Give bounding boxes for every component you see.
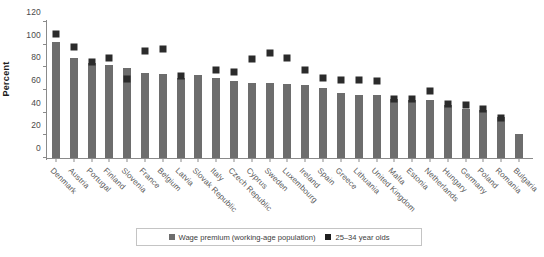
data-point-marker: [498, 115, 505, 122]
data-point-marker: [141, 48, 148, 55]
x-axis-tick-mark: [144, 158, 145, 162]
x-axis-tick-mark: [287, 158, 288, 162]
x-axis-tick-mark: [91, 158, 92, 162]
x-axis-tick-mark: [269, 158, 270, 162]
x-axis-tick-mark: [501, 158, 502, 162]
bar-group: [475, 22, 493, 158]
bar: [141, 73, 149, 158]
bar-group: [118, 22, 136, 158]
x-axis-tick-mark: [340, 158, 341, 162]
x-axis-tick-mark: [234, 158, 235, 162]
x-axis-tick-mark: [447, 158, 448, 162]
x-axis-tick-mark: [162, 158, 163, 162]
bar: [497, 117, 505, 158]
bar-group: [332, 22, 350, 158]
bar: [301, 85, 309, 158]
x-axis-tick-mark: [251, 158, 252, 162]
x-axis-tick-mark: [180, 158, 181, 162]
data-point-marker: [284, 55, 291, 62]
data-point-marker: [391, 96, 398, 103]
bar: [177, 78, 185, 158]
bar-group: [385, 22, 403, 158]
bar-group: [207, 22, 225, 158]
data-point-marker: [213, 66, 220, 73]
x-axis-tick-mark: [305, 158, 306, 162]
bar-group: [368, 22, 386, 158]
y-axis-tick-label: 40: [31, 98, 47, 108]
bar-group: [100, 22, 118, 158]
bar: [515, 134, 523, 158]
data-point-marker: [462, 101, 469, 108]
legend-item: 25–34 year olds: [325, 233, 389, 242]
data-point-marker: [355, 76, 362, 83]
data-point-marker: [320, 74, 327, 81]
y-axis-tick-label: 60: [31, 75, 47, 85]
data-point-marker: [337, 76, 344, 83]
bar: [248, 83, 256, 158]
x-axis-tick-mark: [465, 158, 466, 162]
bar-group: [190, 22, 208, 158]
bar: [266, 83, 274, 158]
chart-legend: Wage premium (working-age population)25–…: [136, 228, 422, 246]
y-axis-tick-label: 0: [36, 143, 47, 153]
data-point-marker: [231, 68, 238, 75]
x-axis-tick-mark: [55, 158, 56, 162]
bar-group: [403, 22, 421, 158]
x-axis-tick-mark: [358, 158, 359, 162]
y-axis-title: Percent: [1, 61, 11, 96]
x-axis-tick-mark: [109, 158, 110, 162]
chart-figure: Percent 020406080100120 Wage premium (wo…: [0, 0, 544, 257]
bar: [444, 105, 452, 158]
bar: [88, 63, 96, 158]
data-point-marker: [409, 96, 416, 103]
x-axis-tick-mark: [323, 158, 324, 162]
data-point-marker: [427, 88, 434, 95]
data-point-marker: [52, 31, 59, 38]
bar-group: [421, 22, 439, 158]
data-point-marker: [248, 56, 255, 63]
bar-group: [172, 22, 190, 158]
bar: [52, 42, 60, 158]
data-point-marker: [88, 58, 95, 65]
x-axis-tick-mark: [519, 158, 520, 162]
x-axis-tick-mark: [376, 158, 377, 162]
bar-group: [65, 22, 83, 158]
bar-group: [296, 22, 314, 158]
data-point-marker: [70, 43, 77, 50]
bar-group: [243, 22, 261, 158]
x-axis-line: [46, 158, 533, 159]
x-axis-tick-mark: [483, 158, 484, 162]
bar: [390, 99, 398, 158]
bar-group: [83, 22, 101, 158]
bar-group: [510, 22, 528, 158]
data-point-marker: [159, 46, 166, 53]
bar: [159, 74, 167, 158]
bar: [337, 93, 345, 158]
bar-group: [350, 22, 368, 158]
bar-group: [154, 22, 172, 158]
plot-area: 020406080100120: [47, 22, 528, 158]
bar-group: [136, 22, 154, 158]
bar: [283, 84, 291, 158]
data-point-marker: [444, 100, 451, 107]
x-axis-tick-mark: [430, 158, 431, 162]
legend-swatch: [169, 234, 175, 240]
bar: [319, 88, 327, 158]
bar: [462, 109, 470, 158]
legend-label: Wage premium (working-age population): [179, 233, 316, 242]
bar-group: [492, 22, 510, 158]
bar: [70, 58, 78, 158]
legend-item: Wage premium (working-age population): [169, 233, 316, 242]
data-point-marker: [266, 49, 273, 56]
bar-group: [314, 22, 332, 158]
bar: [479, 110, 487, 158]
cropped-title-strip: [0, 0, 544, 4]
x-axis-tick-mark: [412, 158, 413, 162]
x-axis-tick-mark: [127, 158, 128, 162]
bar: [355, 95, 363, 158]
x-axis-tick-mark: [394, 158, 395, 162]
data-point-marker: [373, 77, 380, 84]
y-axis-tick-label: 80: [31, 52, 47, 62]
data-point-marker: [106, 55, 113, 62]
legend-label: 25–34 year olds: [335, 233, 389, 242]
